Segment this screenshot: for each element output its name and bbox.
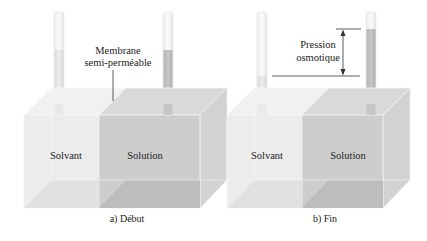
caption-b: b) Fin	[313, 213, 337, 225]
solvent-label-a: Solvant	[50, 150, 82, 161]
solvent-label-b: Solvant	[251, 150, 283, 161]
pressure-label-line1: Pression	[300, 39, 336, 50]
solution-label-a: Solution	[127, 150, 163, 161]
membrane-label-line2: semi-perméable	[84, 57, 151, 68]
solution-label-b: Solution	[330, 150, 366, 161]
panel-b: Pression osmotique Solvant Solution b) F…	[227, 12, 410, 225]
arrow-down-icon	[341, 69, 346, 76]
pressure-label-line2: osmotique	[296, 52, 340, 63]
osmosis-diagram: Membrane semi-perméable Solvant Solution…	[0, 0, 427, 241]
membrane-label-line1: Membrane	[95, 45, 141, 56]
arrow-up-icon	[341, 30, 346, 37]
caption-a: a) Début	[110, 213, 145, 225]
panel-a: Membrane semi-perméable Solvant Solution…	[24, 12, 227, 225]
